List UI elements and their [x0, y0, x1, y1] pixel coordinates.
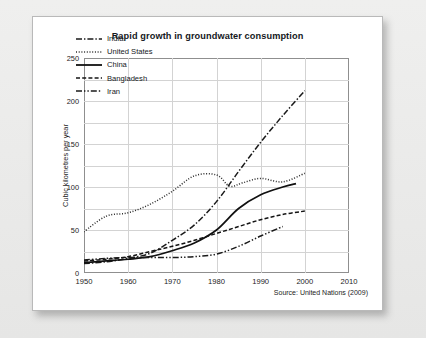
legend-item[interactable]: India — [76, 34, 153, 43]
legend-item[interactable]: Iran — [76, 87, 153, 96]
legend-item[interactable]: Bangladesh — [76, 74, 153, 83]
chart-legend: IndiaUnited StatesChinaBangladeshIran — [76, 34, 153, 96]
y-axis-label: Cubic kilometres per year — [61, 58, 73, 273]
x-tick-label: 1950 — [76, 277, 93, 286]
series-line — [84, 211, 305, 261]
legend-label: Bangladesh — [107, 74, 147, 83]
x-tick-label: 2010 — [341, 277, 358, 286]
legend-item[interactable]: United States — [76, 47, 153, 56]
x-tick-label: 1990 — [252, 277, 269, 286]
legend-swatch-icon — [76, 61, 102, 69]
source-note: Source: United Nations (2009) — [274, 289, 368, 296]
legend-label: United States — [107, 47, 153, 56]
series-line — [84, 91, 305, 264]
x-tick-label: 2000 — [296, 277, 313, 286]
series-line — [84, 184, 296, 263]
legend-swatch-icon — [76, 87, 102, 95]
legend-swatch-icon — [76, 48, 102, 56]
legend-swatch-icon — [76, 35, 102, 43]
x-tick-label: 1970 — [164, 277, 181, 286]
x-tick-label: 1980 — [208, 277, 225, 286]
y-tick-label: 50 — [71, 226, 79, 235]
legend-label: Iran — [107, 87, 120, 96]
y-tick-label: 200 — [67, 97, 79, 106]
legend-label: India — [107, 34, 123, 43]
legend-item[interactable]: China — [76, 60, 153, 69]
y-tick-label: 150 — [67, 140, 79, 149]
legend-swatch-icon — [76, 74, 102, 82]
x-tick-label: 1960 — [120, 277, 137, 286]
legend-label: China — [107, 60, 127, 69]
chart-card: Rapid growth in groundwater consumption … — [32, 16, 383, 311]
series-line — [84, 173, 305, 231]
y-tick-label: 100 — [67, 183, 79, 192]
